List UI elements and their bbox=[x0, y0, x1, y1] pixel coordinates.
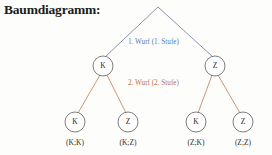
branch-z-to-zz bbox=[218, 75, 240, 113]
node-level1-k-label: K bbox=[100, 61, 106, 70]
outcome-zz: (Z;Z) bbox=[235, 138, 252, 147]
stage-label-first-throw: 1. Wurf (1. Stufe) bbox=[128, 38, 179, 46]
baumdiagramm-figure: Baumdiagramm: K Z K (K;K) Z (K;Z) K (Z;K… bbox=[0, 0, 272, 155]
branch-root-to-k bbox=[105, 7, 158, 57]
outcome-kk: (K;K) bbox=[66, 138, 84, 147]
outcome-kz: (K;Z) bbox=[119, 138, 137, 147]
node-level1-z-label: Z bbox=[213, 61, 218, 70]
branch-root-to-z bbox=[158, 7, 213, 57]
tree-diagram-canvas: K Z K (K;K) Z (K;Z) K (Z;K) Z (Z;Z) bbox=[0, 0, 272, 155]
node-level2-kz-label: Z bbox=[126, 117, 131, 126]
branch-k-to-kk bbox=[78, 75, 100, 113]
stage-label-second-throw: 2. Wurf (2. Stufe) bbox=[128, 79, 179, 87]
outcome-zk: (Z;K) bbox=[187, 138, 205, 147]
node-level2-zz-label: Z bbox=[241, 117, 246, 126]
branch-k-to-kz bbox=[107, 75, 126, 113]
node-level2-zk-label: K bbox=[193, 117, 199, 126]
branch-z-to-zk bbox=[198, 75, 212, 113]
node-level2-kk-label: K bbox=[72, 117, 78, 126]
